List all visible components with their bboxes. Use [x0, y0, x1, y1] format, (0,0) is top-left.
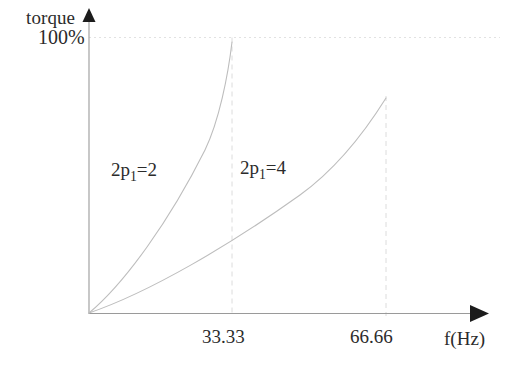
x-axis-label: f(Hz): [444, 329, 485, 348]
x-tick-label-3333: 33.33: [202, 327, 245, 346]
series-annotation-2p1-2: 2p1=2: [111, 160, 157, 183]
chart-canvas: [0, 0, 524, 378]
torque-frequency-chart: torque 100% 33.33 66.66 f(Hz) 2p1=2 2p1=…: [0, 0, 524, 378]
up-arrow-icon: [83, 8, 96, 22]
y-tick-label-100: 100%: [38, 27, 85, 47]
series-annotation-2p1-4: 2p1=4: [240, 158, 286, 181]
series-annotation-0-text: 2p1=2: [111, 159, 157, 180]
y-axis-label: torque: [26, 8, 75, 27]
right-arrow-icon: [470, 305, 489, 322]
x-tick-label-6666: 66.66: [350, 327, 393, 346]
series-annotation-1-text: 2p1=4: [240, 157, 286, 178]
series-curve-2p1-4: [89, 98, 386, 313]
